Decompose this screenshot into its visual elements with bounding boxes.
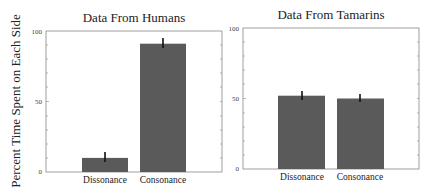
y-ticks (46, 45, 222, 158)
y-ticks (243, 42, 419, 155)
chart-title: Data From Humans (83, 10, 186, 25)
plot-frame (243, 28, 419, 169)
bar-consonance (140, 44, 186, 172)
chart-humans: Data From Humans 100 50 0 Dissonance Con… (32, 10, 223, 185)
figure: Percent Time Spent on Each Side Data Fro… (0, 0, 428, 193)
chart-tamarins: Data From Tamarins 100 50 0 Dissonance C… (229, 7, 420, 182)
bar-dissonance (278, 96, 325, 169)
y-tick-label: 100 (229, 25, 240, 33)
x-tick-label: Dissonance (83, 175, 127, 185)
x-tick-label: Consonance (140, 175, 186, 185)
y-tick-label: 0 (236, 165, 240, 173)
y-axis-label: Percent Time Spent on Each Side (8, 14, 23, 188)
plot-frame (46, 31, 222, 172)
y-tick-label: 50 (35, 98, 43, 106)
y-tick-label: 50 (232, 95, 240, 103)
y-tick-label: 100 (32, 28, 43, 36)
chart-title: Data From Tamarins (277, 7, 384, 22)
x-tick-label: Dissonance (280, 172, 324, 182)
x-tick-label: Consonance (337, 172, 383, 182)
y-tick-label: 0 (39, 168, 43, 176)
bar-consonance (337, 99, 384, 170)
